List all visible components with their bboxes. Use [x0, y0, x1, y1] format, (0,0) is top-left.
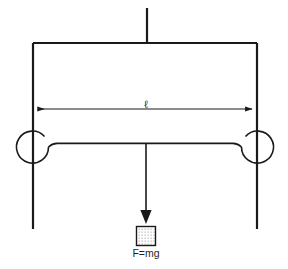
span-length-label: ℓ — [143, 98, 148, 110]
diagram-canvas: ℓ F=mg — [0, 0, 288, 269]
downward-force-arrow-head — [140, 210, 151, 224]
horizontal-rope — [49, 143, 242, 147]
force-label: F=mg — [132, 247, 159, 259]
hanging-mass-block — [137, 227, 156, 246]
physics-diagram-figure: ℓ F=mg — [0, 0, 288, 269]
